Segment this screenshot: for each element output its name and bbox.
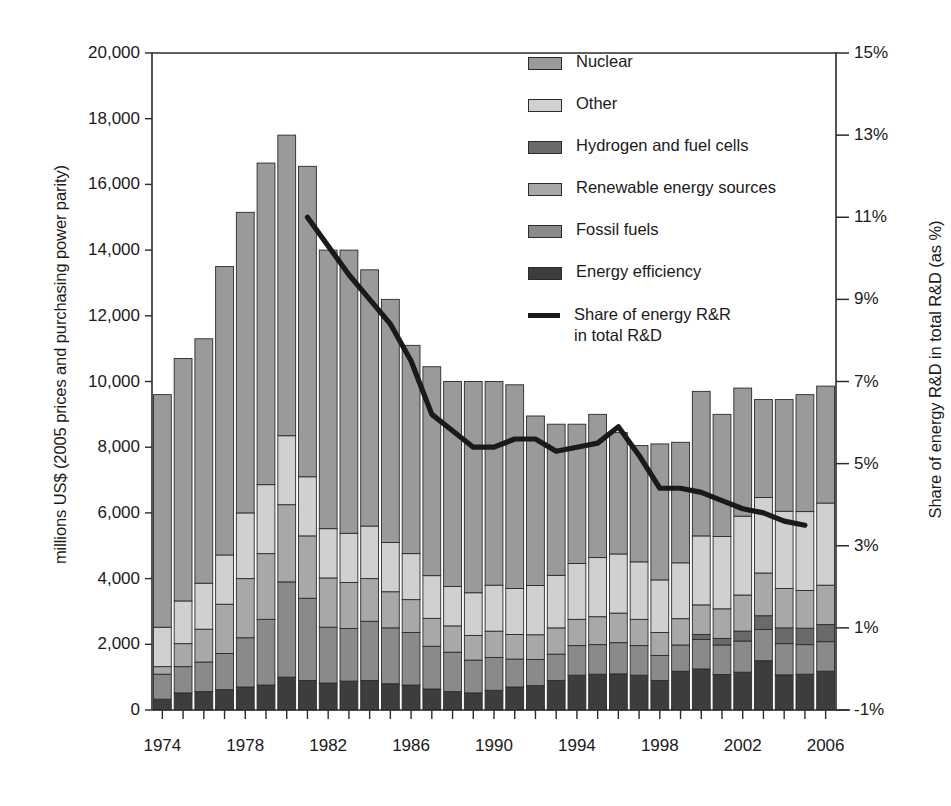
- bar-stack: [485, 382, 503, 711]
- legend-item-label: Renewable energy sources: [576, 178, 776, 197]
- bar-segment: [734, 595, 752, 631]
- bar-segment: [734, 388, 752, 516]
- bar-segment: [381, 628, 399, 684]
- bar-segment: [153, 395, 171, 628]
- bar-segment: [381, 592, 399, 628]
- bar-segment: [547, 680, 565, 710]
- bar-segment: [195, 339, 213, 583]
- bar-segment: [319, 578, 337, 627]
- bar-segment: [692, 669, 710, 710]
- bar-segment: [153, 674, 171, 699]
- bar-stack: [568, 424, 586, 710]
- bar-segment: [278, 582, 296, 677]
- bar-segment: [464, 693, 482, 710]
- bar-stack: [527, 416, 545, 710]
- bar-segment: [692, 634, 710, 639]
- bar-stack: [153, 395, 171, 710]
- bar-segment: [195, 583, 213, 629]
- bar-segment: [236, 687, 254, 710]
- bar-stack: [340, 250, 358, 710]
- bar-segment: [589, 558, 607, 617]
- bar-segment: [361, 621, 379, 680]
- bar-segment: [755, 497, 773, 573]
- bar-segment: [817, 386, 835, 503]
- bar-segment: [713, 537, 731, 609]
- energy-rd-chart: millions US$ (2005 prices and purchasing…: [0, 0, 951, 806]
- bar-stack: [609, 432, 627, 710]
- bar-segment: [299, 680, 317, 710]
- bar-stack: [796, 395, 814, 710]
- bar-segment: [713, 414, 731, 536]
- legend-color-swatch: [528, 225, 562, 238]
- bar-segment: [713, 675, 731, 710]
- bar-segment: [692, 605, 710, 635]
- legend-color-swatch: [528, 141, 562, 154]
- bar-segment: [319, 683, 337, 710]
- bar-segment: [672, 671, 690, 710]
- bar-segment: [734, 672, 752, 710]
- bar-stack: [319, 250, 337, 710]
- bar-segment: [174, 693, 192, 710]
- bar-segment: [174, 644, 192, 667]
- bar-segment: [216, 654, 234, 690]
- bar-segment: [402, 600, 420, 633]
- bar-segment: [713, 638, 731, 645]
- bar-segment: [547, 654, 565, 680]
- bar-segment: [817, 503, 835, 585]
- bar-segment: [423, 618, 441, 646]
- bar-segment: [278, 505, 296, 582]
- bar-segment: [216, 267, 234, 555]
- bar-segment: [444, 626, 462, 652]
- bar-segment: [174, 667, 192, 693]
- legend-color-swatch: [528, 183, 562, 196]
- bar-segment: [609, 613, 627, 643]
- bar-segment: [589, 645, 607, 675]
- legend-item: Share of energy R&R in total R&D: [528, 304, 776, 345]
- bar-segment: [299, 598, 317, 680]
- chart-legend: NuclearOtherHydrogen and fuel cellsRenew…: [528, 52, 776, 345]
- bar-segment: [299, 166, 317, 476]
- bar-segment: [216, 555, 234, 604]
- bar-segment: [381, 542, 399, 591]
- bar-segment: [672, 619, 690, 645]
- bar-segment: [651, 680, 669, 710]
- bar-stack: [381, 299, 399, 710]
- legend-item: Nuclear: [528, 52, 776, 94]
- bar-stack: [278, 135, 296, 710]
- bar-segment: [257, 619, 275, 685]
- bar-segment: [423, 646, 441, 689]
- bar-segment: [216, 690, 234, 710]
- bar-stack: [630, 446, 648, 710]
- bar-segment: [236, 212, 254, 513]
- bar-segment: [402, 685, 420, 710]
- bar-stack: [692, 391, 710, 710]
- bar-segment: [796, 628, 814, 644]
- bar-segment: [257, 163, 275, 485]
- bar-segment: [713, 645, 731, 675]
- bar-segment: [174, 359, 192, 601]
- legend-item-label: Share of energy R&R in total R&D: [574, 304, 742, 345]
- bar-segment: [568, 646, 586, 676]
- bar-segment: [589, 617, 607, 645]
- bar-stack: [817, 386, 835, 710]
- bar-segment: [216, 604, 234, 653]
- bar-segment: [817, 585, 835, 624]
- bar-segment: [340, 250, 358, 533]
- bar-segment: [734, 631, 752, 641]
- bar-segment: [236, 513, 254, 579]
- bar-segment: [402, 632, 420, 685]
- legend-item-label: Fossil fuels: [576, 220, 659, 239]
- bar-segment: [651, 632, 669, 655]
- bar-segment: [485, 690, 503, 710]
- bar-stack: [174, 359, 192, 711]
- bar-segment: [609, 674, 627, 710]
- bar-segment: [257, 685, 275, 710]
- bar-stack: [734, 388, 752, 710]
- bar-segment: [153, 667, 171, 675]
- bar-segment: [464, 660, 482, 693]
- bar-segment: [319, 627, 337, 683]
- bar-segment: [319, 529, 337, 578]
- legend-item: Renewable energy sources: [528, 178, 776, 220]
- bar-segment: [444, 382, 462, 587]
- bar-segment: [609, 554, 627, 613]
